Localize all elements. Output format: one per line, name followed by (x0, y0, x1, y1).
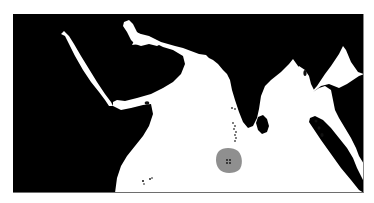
chagos-dot (226, 159, 228, 161)
socotra-island (145, 101, 150, 105)
bay-of-bengal (259, 66, 358, 193)
seychelles-dot (151, 177, 153, 179)
map-frame (13, 14, 364, 193)
maldives-dot (233, 128, 235, 130)
maldives-dot (234, 140, 236, 142)
maldives-dot (234, 134, 236, 136)
maldives-dot (235, 137, 237, 139)
maldives-dot (232, 122, 234, 124)
maldives-dot (235, 131, 237, 133)
island-dot (315, 120, 318, 123)
maldives-dot (234, 125, 236, 127)
andaman-island (303, 70, 306, 76)
island-dot (231, 107, 233, 109)
chagos-dot (229, 162, 231, 164)
island-dot (318, 126, 321, 130)
island-dot (320, 133, 323, 137)
chagos-dot (226, 162, 228, 164)
seychelles-dot (143, 183, 145, 185)
seychelles-dot (149, 178, 151, 180)
chagos-dot (229, 159, 231, 161)
seychelles-dot (142, 180, 144, 182)
indian-ocean-map (13, 14, 364, 193)
island-dot (234, 108, 236, 110)
highlighted-area (216, 148, 242, 173)
